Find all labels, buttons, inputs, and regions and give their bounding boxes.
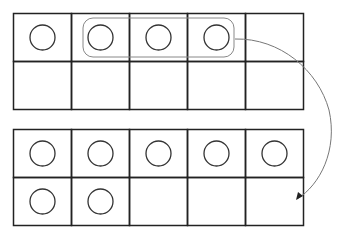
counter-circle <box>30 189 55 214</box>
frame-cell <box>130 178 188 226</box>
frame-cell <box>246 130 304 178</box>
frame-cell <box>130 130 188 178</box>
frame-cell <box>246 178 304 226</box>
frame-cell <box>72 130 130 178</box>
frame-cell <box>246 14 304 62</box>
counter-circle <box>88 141 113 166</box>
frame-cell <box>188 178 246 226</box>
frame-cell <box>246 62 304 110</box>
counter-circle <box>30 141 55 166</box>
frame-cell <box>14 178 72 226</box>
counter-circle <box>88 189 113 214</box>
frame-cell <box>14 14 72 62</box>
counter-circle <box>88 25 113 50</box>
frame-cell <box>72 178 130 226</box>
frame-cell <box>72 14 130 62</box>
frame-cell <box>14 62 72 110</box>
counter-circle <box>262 141 287 166</box>
move-arrow <box>235 39 331 199</box>
group-outline <box>83 18 234 57</box>
counter-circle <box>146 141 171 166</box>
counter-circle <box>204 141 229 166</box>
counter-circle <box>204 25 229 50</box>
arrow-head-icon <box>296 192 303 200</box>
frame-cell <box>130 14 188 62</box>
frame-cell <box>130 62 188 110</box>
counter-circle <box>30 25 55 50</box>
frame-cell <box>14 130 72 178</box>
top-ten-frame <box>14 14 304 110</box>
frame-cell <box>188 14 246 62</box>
counter-circle <box>146 25 171 50</box>
bottom-ten-frame <box>14 130 304 226</box>
frame-cell <box>72 62 130 110</box>
ten-frame-diagram <box>0 0 343 236</box>
frame-cell <box>188 130 246 178</box>
frame-cell <box>188 62 246 110</box>
